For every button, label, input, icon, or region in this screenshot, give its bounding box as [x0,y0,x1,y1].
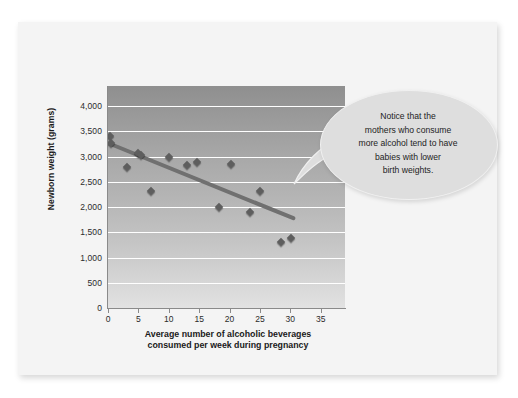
x-axis-title: Average number of alcoholic beverages co… [78,329,378,351]
x-tick-label: 35 [309,314,333,324]
x-tick-mark [138,309,139,313]
x-tick-label: 0 [96,314,120,324]
callout-text: Notice that themothers who consumemore a… [336,110,480,178]
x-tick-mark [199,309,200,313]
plot-area [108,86,345,308]
y-tick-label: 1,500 [58,227,102,237]
x-tick-mark [230,309,231,313]
x-tick-mark [321,309,322,313]
callout-annotation: Notice that themothers who consumemore a… [320,90,496,198]
y-tick-label: 2,000 [58,202,102,212]
x-tick-label: 20 [218,314,242,324]
callout-text-line: babies with lower [336,151,480,165]
x-tick-mark [290,309,291,313]
x-tick-label: 15 [187,314,211,324]
x-tick-label: 25 [248,314,272,324]
y-tick-label: 2,500 [58,177,102,187]
y-tick-label: 1,000 [58,253,102,263]
x-tick-mark [260,309,261,313]
y-tick-label: 0 [58,303,102,313]
y-tick-label: 4,000 [58,101,102,111]
x-tick-label: 5 [126,314,150,324]
callout-text-line: mothers who consume [336,124,480,138]
x-axis-title-line-1: Average number of alcoholic beverages [145,329,311,339]
y-tick-label: 500 [58,278,102,288]
x-tick-label: 10 [157,314,181,324]
trend-line [108,86,345,308]
x-tick-mark [108,309,109,313]
y-axis-tick-labels: 05001,0001,5002,0002,5003,0003,5004,000 [52,86,102,308]
x-axis-title-line-2: consumed per week during pregnancy [148,340,309,350]
y-tick-label: 3,000 [58,152,102,162]
x-axis-tick-labels: 05101520253035 [108,314,345,330]
y-tick-label: 3,500 [58,126,102,136]
callout-text-line: more alcohol tend to have [336,137,480,151]
x-tick-label: 30 [278,314,302,324]
callout-text-line: Notice that the [336,110,480,124]
figure-card: Newborn weight (grams) 05001,0001,5002,0… [18,22,497,375]
x-tick-mark [169,309,170,313]
callout-text-line: birth weights. [336,164,480,178]
